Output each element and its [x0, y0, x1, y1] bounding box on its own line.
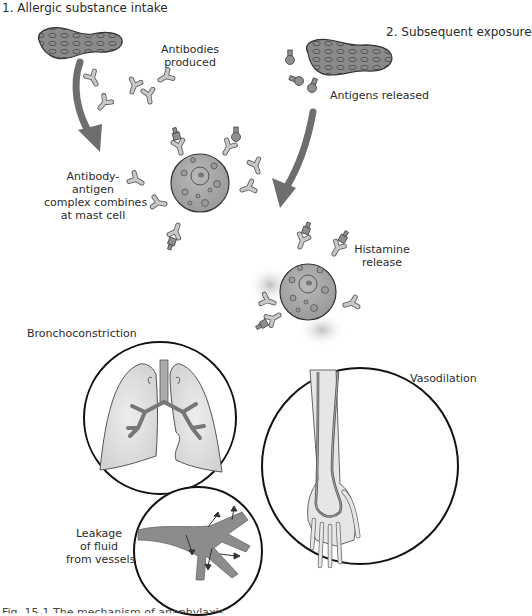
degranulating-mast-cell-icon [248, 221, 358, 347]
label-line: Antibodies [160, 43, 220, 56]
antibodies-produced-label: Antibodies produced [160, 43, 220, 69]
label-line: antigen [44, 183, 142, 196]
leakage-of-fluid-label: Leakage of fluid from vessels [66, 527, 132, 566]
label-line: Antibody- [44, 170, 142, 183]
step1-heading: 1. Allergic substance intake [2, 2, 168, 15]
label-line: Histamine [352, 243, 412, 256]
step2-heading: 2. Subsequent exposure [386, 26, 532, 39]
antibody-antigen-complex-label: Antibody- antigen complex combines at ma… [44, 170, 142, 222]
label-line: produced [160, 56, 220, 69]
lungs-circle [84, 342, 236, 494]
vasodilation-label: Vasodilation [410, 372, 477, 385]
label-line: of fluid [66, 540, 132, 553]
arm-circle [262, 368, 458, 566]
bronchoconstriction-label: Bronchoconstriction [27, 327, 137, 340]
label-line: complex combines [44, 196, 142, 209]
peanut-allergen-2-icon [307, 40, 392, 76]
arrow-exposure-to-histamine-icon [272, 112, 313, 208]
label-line: release [352, 256, 412, 269]
histamine-release-label: Histamine release [352, 243, 412, 269]
label-line: from vessels [66, 553, 132, 566]
peanut-allergen-icon [39, 28, 123, 59]
vessel-circle [134, 487, 262, 615]
antibodies-produced-group [86, 70, 173, 112]
label-line: at mast cell [44, 209, 142, 222]
label-line: Leakage [66, 527, 132, 540]
mast-cell-icon [129, 127, 263, 252]
antigens-released-label: Antigens released [330, 89, 429, 102]
